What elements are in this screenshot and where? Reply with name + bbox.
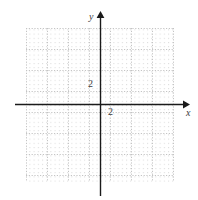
coordinate-plane-svg xyxy=(0,0,198,200)
x-axis-tick-label-2: 2 xyxy=(108,107,113,117)
graph-screenshot: y x 2 2 xyxy=(0,0,198,200)
coordinate-plane-figure: y x 2 2 xyxy=(0,0,198,200)
y-axis-label: y xyxy=(89,12,93,22)
y-axis-tick-label-2: 2 xyxy=(88,79,93,89)
x-axis-label: x xyxy=(186,108,190,118)
